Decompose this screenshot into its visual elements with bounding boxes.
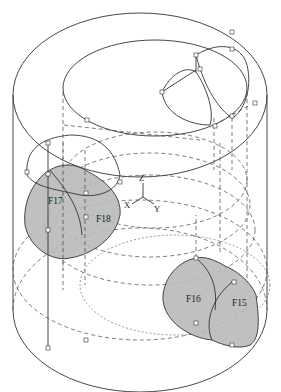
axis-label-y: Y	[154, 204, 160, 214]
face-label-f15: F15	[232, 298, 247, 308]
face-label-f17: F17	[48, 196, 63, 206]
face-label-f16: F16	[186, 294, 201, 304]
face-label-f18: F18	[96, 214, 111, 224]
top-right-curves	[162, 47, 250, 170]
axis-label-z: Z	[139, 173, 144, 183]
cad-figure: F17 F18 F16 F15 Z X Y	[0, 0, 281, 392]
axis-triad-icon: Z X Y	[124, 173, 160, 214]
axis-label-x: X	[124, 200, 130, 210]
faces-f16-f15	[163, 140, 258, 347]
